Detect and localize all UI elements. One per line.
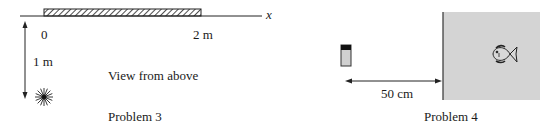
- horizontal-distance-label: 50 cm: [381, 87, 413, 101]
- problem-4-caption: Problem 4: [424, 110, 478, 124]
- tick-label-start: 0: [41, 28, 48, 42]
- tick-label-end: 2 m: [193, 28, 213, 42]
- water-tank: [443, 12, 540, 100]
- horizontal-distance-arrow: [345, 79, 442, 84]
- problem-3-drawing: [0, 0, 553, 124]
- star-burst-icon: [35, 88, 53, 106]
- small-object-icon: [341, 45, 351, 66]
- vertical-distance-label: 1 m: [33, 55, 53, 69]
- problem-3-caption: Problem 3: [108, 110, 162, 124]
- vertical-distance-arrow: [23, 21, 28, 99]
- x-axis-label: x: [266, 8, 272, 22]
- view-label: View from above: [108, 69, 198, 83]
- hatched-bar: [44, 9, 201, 16]
